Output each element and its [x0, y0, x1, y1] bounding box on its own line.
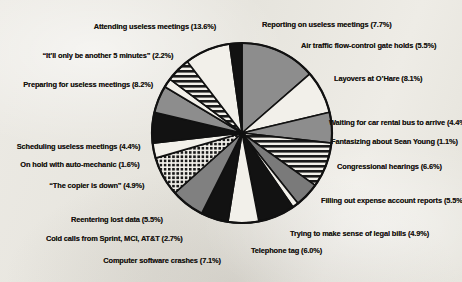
pie-slice-label: Congressional hearings (6.6%)	[337, 162, 442, 172]
pie-slice-label: Filling out expense account reports (5.5…	[321, 196, 462, 206]
pie-slice-label: Fantasizing about Sean Young (1.1%)	[331, 137, 458, 147]
pie-slice-label: “The copier is down” (4.9%)	[49, 181, 144, 191]
pie-slice-label: Preparing for useless meetings (8.2%)	[23, 80, 153, 90]
pie-slice-label: Cold calls from Sprint, MCI, AT&T (2.7%)	[46, 234, 183, 244]
pie-slice-label: Trying to make sense of legal bills (4.9…	[290, 229, 429, 239]
pie-slice-label: Scheduling useless meetings (4.4%)	[16, 142, 140, 152]
pie-slice-label: Reentering lost data (5.5%)	[71, 215, 163, 225]
pie-slice-label: Computer software crashes (7.1%)	[103, 256, 221, 266]
pie-slice-label: “It’ll only be another 5 minutes” (2.2%)	[42, 51, 173, 61]
pie-slice-label: Layovers at O’Hare (8.1%)	[334, 74, 422, 84]
pie-slice-label: Air traffic flow-control gate holds (5.5…	[301, 41, 436, 51]
pie-slice-label: Reporting on useless meetings (7.7%)	[262, 20, 392, 30]
pie-slice-label: Waiting for car rental bus to arrive (4.…	[329, 118, 462, 128]
pie-slice-label: Attending useless meetings (13.6%)	[94, 22, 216, 32]
pie-slice-label: Telephone tag (6.0%)	[251, 246, 322, 256]
pie-slice-label: On hold with auto-mechanic (1.6%)	[21, 160, 140, 170]
pie-chart-figure: Attending useless meetings (13.6%)“It’ll…	[0, 0, 462, 282]
